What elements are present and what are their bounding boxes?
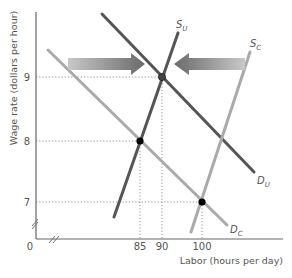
label-d-c: DC bbox=[230, 224, 243, 238]
curve-d-c bbox=[48, 50, 227, 225]
y-tick-9: 9 bbox=[24, 72, 30, 83]
y-axis-label: Wage rate (dollars per hour) bbox=[8, 11, 19, 146]
axes bbox=[36, 12, 283, 239]
x-tick-100: 100 bbox=[192, 241, 211, 252]
arrow-right-icon bbox=[68, 53, 145, 75]
x-tick-90: 90 bbox=[156, 241, 169, 252]
labor-market-chart: 9 8 7 0 85 90 100 Labor (hours per day) … bbox=[0, 0, 292, 278]
point-100-7 bbox=[198, 198, 205, 205]
point-90-9 bbox=[158, 73, 165, 80]
axis-break-y bbox=[32, 219, 38, 229]
origin-label: 0 bbox=[27, 241, 33, 252]
curve-s-c bbox=[191, 52, 250, 232]
point-85-8 bbox=[136, 137, 143, 144]
label-s-u: SU bbox=[176, 19, 187, 33]
guide-lines bbox=[36, 77, 202, 239]
x-axis-label: Labor (hours per day) bbox=[180, 255, 283, 266]
x-tick-85: 85 bbox=[134, 241, 147, 252]
y-tick-8: 8 bbox=[24, 136, 30, 147]
label-d-u: DU bbox=[257, 175, 270, 189]
arrow-left-icon bbox=[174, 53, 245, 75]
label-s-c: SC bbox=[250, 38, 261, 52]
curve-d-u bbox=[102, 14, 254, 172]
y-tick-7: 7 bbox=[24, 197, 30, 208]
